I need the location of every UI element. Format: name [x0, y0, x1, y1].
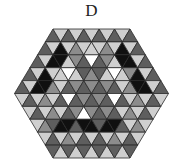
hexagon-triangle-grid	[0, 0, 183, 166]
